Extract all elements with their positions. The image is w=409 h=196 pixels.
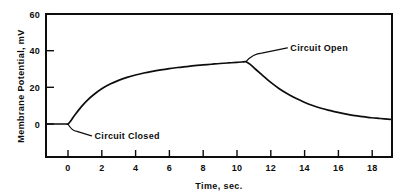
y-tick-label-40: 40: [29, 46, 40, 56]
x-axis-title: Time, sec.: [195, 181, 242, 191]
circuit-open-label: Circuit Open: [290, 43, 348, 53]
x-tick-label-0: 0: [65, 163, 70, 173]
circuit-closed-label: Circuit Closed: [95, 131, 160, 141]
y-tick-label-60: 60: [29, 10, 40, 20]
chart-svg: 60 40 20 0 0 2 4 6 8 10 12 14 16 18 Time…: [0, 0, 409, 196]
membrane-potential-chart: 60 40 20 0 0 2 4 6 8 10 12 14 16 18 Time…: [0, 0, 409, 196]
x-tick-label-8: 8: [201, 163, 206, 173]
x-tick-label-6: 6: [167, 163, 172, 173]
x-tick-label-4: 4: [133, 163, 138, 173]
y-tick-label-20: 20: [29, 83, 40, 93]
y-axis-title: Membrane Potential, mV: [16, 29, 26, 142]
x-tick-label-14: 14: [299, 163, 310, 173]
y-tick-label-0: 0: [35, 120, 40, 130]
x-tick-label-2: 2: [99, 163, 104, 173]
x-tick-label-16: 16: [333, 163, 344, 173]
x-tick-label-12: 12: [265, 163, 276, 173]
x-tick-label-18: 18: [367, 163, 378, 173]
x-tick-label-10: 10: [232, 163, 243, 173]
